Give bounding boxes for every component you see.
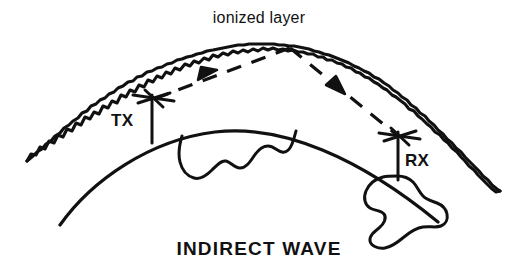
figure-caption: INDIRECT WAVE (0, 239, 518, 258)
rx-station-label: RX (405, 152, 429, 169)
indirect-wave-diagram (0, 0, 518, 268)
tx-station-label: TX (111, 112, 133, 129)
ionized-layer-label: ionized layer (0, 10, 518, 26)
